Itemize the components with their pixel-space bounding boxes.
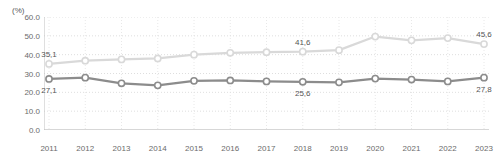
data-point-label: 27,1 xyxy=(41,85,57,94)
data-point-marker xyxy=(481,75,487,81)
data-point-label: 41,6 xyxy=(295,37,311,46)
data-point-marker xyxy=(481,41,487,47)
series-canvas xyxy=(44,17,489,130)
x-axis-tick: 2021 xyxy=(403,144,421,153)
data-point-marker xyxy=(445,78,451,84)
line-chart: (%) 0.010.020.030.040.050.060.0 20112012… xyxy=(0,0,497,157)
data-point-marker xyxy=(408,76,414,82)
x-axis-tick: 2012 xyxy=(76,144,94,153)
data-point-marker xyxy=(191,52,197,58)
data-point-marker xyxy=(46,76,52,82)
data-point-marker xyxy=(46,61,52,67)
data-point-marker xyxy=(336,79,342,85)
x-axis-tick: 2020 xyxy=(366,144,384,153)
data-point-marker xyxy=(300,79,306,85)
y-axis-tick: 30.0 xyxy=(10,69,40,78)
data-point-marker xyxy=(191,78,197,84)
x-axis-tick: 2016 xyxy=(221,144,239,153)
data-point-marker xyxy=(263,49,269,55)
data-point-marker xyxy=(155,55,161,61)
data-point-marker xyxy=(372,75,378,81)
data-point-label: 35,1 xyxy=(41,49,57,58)
plot-area xyxy=(44,17,489,130)
data-point-marker xyxy=(118,56,124,62)
y-axis-tick: 50.0 xyxy=(10,31,40,40)
x-axis-tick: 2017 xyxy=(258,144,276,153)
data-point-marker xyxy=(118,80,124,86)
data-point-marker xyxy=(155,82,161,88)
x-axis-tick: 2014 xyxy=(149,144,167,153)
data-point-label: 45,6 xyxy=(476,30,492,39)
data-point-marker xyxy=(82,75,88,81)
data-point-marker xyxy=(263,78,269,84)
data-point-label: 27,8 xyxy=(476,84,492,93)
data-point-marker xyxy=(227,77,233,83)
y-axis-tick: 60.0 xyxy=(10,13,40,22)
x-axis-tick: 2023 xyxy=(475,144,493,153)
data-point-label: 25,6 xyxy=(295,88,311,97)
data-point-marker xyxy=(408,37,414,43)
x-axis-tick: 2015 xyxy=(185,144,203,153)
data-point-marker xyxy=(300,49,306,55)
data-point-marker xyxy=(372,33,378,39)
data-point-marker xyxy=(227,50,233,56)
y-axis-tick: 0.0 xyxy=(10,126,40,135)
x-axis-tick: 2011 xyxy=(40,144,57,153)
x-axis-tick: 2022 xyxy=(439,144,457,153)
y-axis-tick: 10.0 xyxy=(10,107,40,116)
x-axis-tick: 2013 xyxy=(113,144,131,153)
data-point-marker xyxy=(445,35,451,41)
x-axis-tick: 2019 xyxy=(330,144,348,153)
y-axis-tick: 40.0 xyxy=(10,50,40,59)
y-axis-tick: 20.0 xyxy=(10,88,40,97)
data-point-marker xyxy=(82,58,88,64)
x-axis-tick: 2018 xyxy=(294,144,312,153)
data-point-marker xyxy=(336,47,342,53)
